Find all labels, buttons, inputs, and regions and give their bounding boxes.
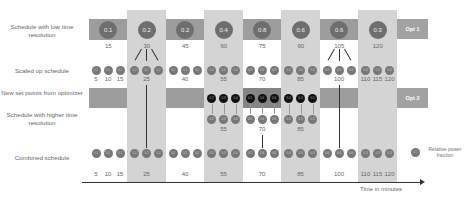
scaled-circle: 0.8	[246, 66, 255, 75]
connector-line	[224, 104, 225, 114]
higher-res-circle: 0.6	[270, 115, 279, 124]
low-res-circle: 0.3	[369, 21, 387, 39]
scaled-time: 55	[209, 76, 239, 82]
combined-circle: 0.4	[284, 149, 293, 158]
scaled-circle: 0.2	[181, 66, 190, 75]
higher-res-circle: 0.5	[308, 115, 317, 124]
setpoint-circle: 0.2	[207, 94, 216, 103]
scaled-circle: 0.6	[284, 66, 293, 75]
higher-res-time: 85	[286, 126, 316, 132]
arrow-70-combined	[262, 135, 263, 148]
setpoint-circle: 0.5	[246, 94, 255, 103]
scaled-circle: 0.3	[361, 66, 370, 75]
combined-circle: 0.3	[373, 149, 382, 158]
scaled-circle: 0.8	[270, 66, 279, 75]
combined-circle: 0.6	[335, 149, 344, 158]
setpoint-circle: 0.3	[219, 94, 228, 103]
scaled-circle: 0.2	[193, 66, 202, 75]
scaled-time: 15	[105, 76, 135, 82]
scaled-circle: 0.4	[231, 66, 240, 75]
setpoint-circle: 0.4	[284, 94, 293, 103]
combined-circle: 0.6	[258, 149, 267, 158]
opt2-strip-a	[89, 88, 127, 108]
scaled-time: 85	[286, 76, 316, 82]
combined-circle: 0.3	[385, 149, 394, 158]
combined-circle: 0.1	[104, 149, 113, 158]
setpoint-circle: 0.3	[296, 94, 305, 103]
connector-line	[212, 104, 213, 114]
scaled-circle: 0.1	[104, 66, 113, 75]
combined-time: 40	[170, 171, 200, 177]
combined-circle: 0.3	[219, 149, 228, 158]
low-res-circle: 0.4	[215, 21, 233, 39]
higher-res-circle: 0.6	[258, 115, 267, 124]
setpoint-circle: 0.6	[270, 94, 279, 103]
scaled-circle: 0.4	[219, 66, 228, 75]
combined-circle: 0.5	[246, 149, 255, 158]
row-label-low-res: Schedule with low time resolution	[0, 23, 84, 39]
low-res-time: 120	[363, 43, 393, 49]
combined-circle: 0.2	[154, 149, 163, 158]
higher-res-circle: 0.5	[246, 115, 255, 124]
low-res-time: 45	[170, 43, 200, 49]
combined-circle: 0.6	[347, 149, 356, 158]
scaled-circle: 0.6	[308, 66, 317, 75]
connector-line	[262, 104, 263, 114]
combined-circle: 0.3	[296, 149, 305, 158]
scaled-time: 100	[324, 76, 354, 82]
higher-res-circle: 0.3	[219, 115, 228, 124]
opt2-strip-b	[166, 88, 204, 108]
higher-res-circle: 0.2	[207, 115, 216, 124]
axis-label: Time in minutes	[360, 186, 402, 192]
scaled-circle: 0.1	[116, 66, 125, 75]
opt1-label: Opt 1	[397, 19, 428, 39]
combined-circle: 0.6	[323, 149, 332, 158]
setpoint-circle: 0.6	[258, 94, 267, 103]
arrow-105-right	[344, 49, 351, 61]
combined-circle: 0.2	[193, 149, 202, 158]
setpoint-circle: 0.5	[308, 94, 317, 103]
legend-circle-icon: 0.1	[411, 148, 420, 157]
combined-time: 70	[247, 171, 277, 177]
combined-circle: 0.3	[361, 149, 370, 158]
combined-circle: 0.1	[116, 149, 125, 158]
combined-time: 120	[375, 171, 405, 177]
low-res-circle: 0.2	[138, 21, 156, 39]
scaled-circle: 0.2	[142, 66, 151, 75]
row-label-scaled: Scaled up schedule	[0, 67, 84, 75]
connector-line	[289, 104, 290, 114]
arrow-25-combined	[146, 85, 147, 148]
combined-circle: 0.2	[169, 149, 178, 158]
combined-circle: 0.2	[142, 149, 151, 158]
higher-res-time: 55	[209, 126, 239, 132]
low-res-time: 15	[93, 43, 123, 49]
scaled-circle: 0.2	[154, 66, 163, 75]
connector-line	[301, 104, 302, 114]
scaled-time: 120	[375, 76, 405, 82]
combined-circle: 0.5	[308, 149, 317, 158]
row-label-new-setpoints: New set points from optimizer	[0, 89, 84, 97]
scaled-circle: 0.2	[130, 66, 139, 75]
scaled-circle: 0.6	[335, 66, 344, 75]
axis-arrow-icon	[420, 179, 425, 185]
combined-circle: 0.6	[270, 149, 279, 158]
scaled-circle: 0.6	[323, 66, 332, 75]
low-res-time: 75	[247, 43, 277, 49]
scaled-circle: 0.8	[258, 66, 267, 75]
scaled-circle: 0.3	[373, 66, 382, 75]
low-res-circle: 0.6	[292, 21, 310, 39]
scaled-circle: 0.1	[92, 66, 101, 75]
scaled-time: 40	[170, 76, 200, 82]
higher-res-circle: 0.4	[284, 115, 293, 124]
combined-time: 55	[209, 171, 239, 177]
higher-res-circle: 0.3	[296, 115, 305, 124]
connector-line	[313, 104, 314, 114]
combined-circle: 0.2	[207, 149, 216, 158]
row-label-higher-res: Schedule with higher time resolution	[0, 111, 84, 127]
higher-res-circle: 0.4	[231, 115, 240, 124]
combined-circle: 0.2	[130, 149, 139, 158]
combined-circle: 0.4	[231, 149, 240, 158]
scaled-circle: 0.6	[296, 66, 305, 75]
low-res-time: 60	[209, 43, 239, 49]
combined-time: 100	[324, 171, 354, 177]
